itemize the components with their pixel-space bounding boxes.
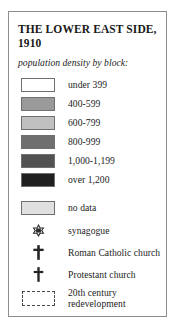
legend-row-no-data: no data <box>18 198 157 217</box>
swatch-1000-1199 <box>21 154 55 168</box>
legend-label-over-1200: over 1,200 <box>68 174 110 185</box>
symbol-legend-list: synagogue Roman Catholic church <box>18 219 157 311</box>
density-legend-list: under 399 400-599 600-799 800-999 1,000-… <box>18 75 157 217</box>
protestant-symbol-cell <box>21 266 55 283</box>
dashed-rectangle-icon <box>22 291 55 306</box>
swatch-800-999 <box>21 135 55 149</box>
legend-label-protestant-church: Protestant church <box>68 269 136 280</box>
legend-label-redevelopment: 20th century redevelopment <box>68 287 126 310</box>
legend-row-synagogue: synagogue <box>18 219 157 241</box>
swatch-under-399 <box>21 78 55 92</box>
legend-label-roman-catholic-church: Roman Catholic church <box>68 247 160 258</box>
legend-label-400-599: 400-599 <box>68 98 100 109</box>
legend-subtitle: population density by block: <box>18 57 157 69</box>
latin-cross-icon <box>32 244 45 261</box>
legend-row-under-399: under 399 <box>18 75 157 94</box>
legend-label-no-data: no data <box>68 202 96 213</box>
swatch-400-599 <box>21 97 55 111</box>
legend-spacer <box>18 189 157 198</box>
legend-row-600-799: 600-799 <box>18 113 157 132</box>
redevelopment-symbol-cell <box>21 291 55 306</box>
legend-label-under-399: under 399 <box>68 79 107 90</box>
legend-label-redevelopment-line2: redevelopment <box>68 298 126 310</box>
legend-label-800-999: 800-999 <box>68 136 100 147</box>
legend-row-800-999: 800-999 <box>18 132 157 151</box>
legend-row-protestant-church: Protestant church <box>18 263 157 285</box>
legend-row-400-599: 400-599 <box>18 94 157 113</box>
legend-row-redevelopment: 20th century redevelopment <box>18 285 157 311</box>
legend-content: THE LOWER EAST SIDE, 1910 population den… <box>9 12 166 311</box>
latin-cross-icon <box>32 266 45 283</box>
legend-label-redevelopment-line1: 20th century <box>68 287 126 299</box>
roman-catholic-symbol-cell <box>21 244 55 261</box>
legend-label-600-799: 600-799 <box>68 117 100 128</box>
swatch-600-799 <box>21 116 55 130</box>
map-legend-panel: THE LOWER EAST SIDE, 1910 population den… <box>8 11 167 317</box>
legend-row-roman-catholic-church: Roman Catholic church <box>18 241 157 263</box>
synagogue-symbol-cell <box>21 223 55 238</box>
swatch-over-1200 <box>21 173 55 187</box>
legend-label-synagogue: synagogue <box>68 225 109 236</box>
legend-title: THE LOWER EAST SIDE, 1910 <box>18 23 157 50</box>
star-of-david-icon <box>31 223 46 238</box>
legend-label-1000-1199: 1,000-1,199 <box>68 155 115 166</box>
legend-row-over-1200: over 1,200 <box>18 170 157 189</box>
swatch-no-data <box>21 201 55 215</box>
legend-row-1000-1199: 1,000-1,199 <box>18 151 157 170</box>
